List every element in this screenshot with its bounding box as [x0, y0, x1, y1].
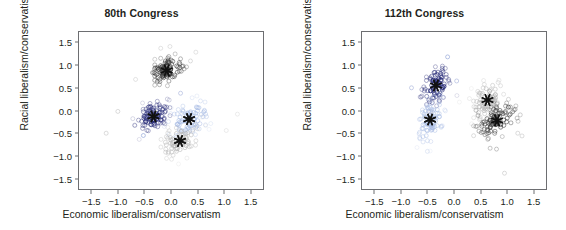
scatter-point — [409, 86, 413, 90]
scatter-point — [166, 120, 170, 124]
y-tick-label: 1.5 — [329, 37, 355, 48]
x-tick-mark — [533, 190, 534, 194]
scatter-point — [502, 92, 506, 96]
x-tick-label: 1.0 — [218, 196, 231, 207]
x-axis-label: Economic liberalism/conservatism — [283, 208, 566, 220]
x-tick-mark — [197, 190, 198, 194]
y-tick-label: −1.5 — [329, 173, 355, 184]
x-tick-label: 0.0 — [164, 196, 177, 207]
scatter-point — [104, 131, 108, 135]
scatter-point — [141, 126, 145, 130]
x-tick-mark — [374, 190, 375, 194]
x-tick-mark — [427, 190, 428, 194]
scatter-point — [194, 50, 198, 54]
scatter-point — [134, 77, 138, 81]
y-tick-mark — [75, 65, 79, 66]
scatter-point — [165, 84, 169, 88]
panel-112th-congress: 112th Congress Racial liberalism/conserv… — [283, 0, 566, 230]
scatter-point — [153, 78, 157, 82]
x-tick-mark — [91, 190, 92, 194]
scatter-point — [163, 140, 167, 144]
y-tick-mark — [358, 65, 362, 66]
scatter-point — [188, 59, 192, 63]
scatter-point — [516, 131, 520, 135]
x-tick-label: −1.0 — [391, 196, 410, 207]
scatter-point — [209, 122, 213, 126]
y-tick-label: 1.0 — [329, 60, 355, 71]
scatter-point — [509, 121, 513, 125]
scatter-point — [177, 162, 181, 166]
x-tick-mark — [224, 190, 225, 194]
scatter-point — [495, 147, 499, 151]
scatter-point — [185, 156, 189, 160]
scatter-point — [116, 109, 120, 113]
y-tick-mark — [358, 155, 362, 156]
scatter-point — [469, 86, 473, 90]
x-tick-label: −1.0 — [108, 196, 127, 207]
y-tick-label: −1.0 — [46, 150, 72, 161]
scatter-point — [455, 94, 459, 98]
scatter-point — [153, 57, 157, 61]
y-tick-mark — [358, 87, 362, 88]
scatter-point — [472, 116, 476, 120]
scatter-point — [502, 171, 506, 175]
scatter-point — [131, 117, 135, 121]
y-tick-mark — [358, 42, 362, 43]
x-tick-mark — [400, 190, 401, 194]
scatter-point — [179, 91, 183, 95]
scatter-point — [167, 79, 171, 83]
scatter-point — [500, 135, 504, 139]
scatter-point — [159, 145, 163, 149]
scatter-point — [467, 97, 471, 101]
scatter-point — [194, 143, 198, 147]
scatter-point — [137, 137, 141, 141]
y-tick-label: 1.5 — [46, 37, 72, 48]
scatter-point — [457, 100, 461, 104]
scatter-point — [195, 94, 199, 98]
panel-80th-congress: 80th Congress Racial liberalism/conserva… — [0, 0, 283, 230]
plot-area: 1.51.00.50.0−0.5−1.0−1.5−1.5−1.0−0.50.00… — [361, 31, 547, 190]
scatter-point — [176, 108, 180, 112]
x-tick-label: −1.5 — [82, 196, 101, 207]
scatter-point — [165, 156, 169, 160]
scatter-point — [168, 44, 172, 48]
scatter-point — [493, 87, 497, 91]
scatter-point — [518, 113, 522, 117]
x-tick-mark — [507, 190, 508, 194]
scatter-point — [159, 137, 163, 141]
panel-title: 112th Congress — [283, 7, 566, 19]
scatter-point — [193, 133, 197, 137]
x-tick-label: −1.5 — [365, 196, 384, 207]
y-tick-mark — [75, 155, 79, 156]
scatter-points-layer — [361, 31, 547, 190]
y-tick-mark — [75, 87, 79, 88]
scatter-point — [159, 56, 163, 60]
scatter-point — [141, 101, 145, 105]
y-tick-label: −0.5 — [46, 128, 72, 139]
panel-title: 80th Congress — [0, 7, 283, 19]
y-axis-label: Racial liberalism/conservatism — [301, 0, 313, 140]
scatter-point — [159, 46, 163, 50]
scatter-point — [472, 134, 476, 138]
scatter-point — [235, 112, 239, 116]
y-tick-label: 0.0 — [46, 105, 72, 116]
scatter-point — [194, 139, 198, 143]
scatter-point — [199, 99, 203, 103]
scatter-point — [488, 146, 492, 150]
x-axis-label: Economic liberalism/conservatism — [0, 208, 283, 220]
y-tick-label: −1.0 — [329, 150, 355, 161]
scatter-point — [415, 146, 419, 150]
scatter-point — [181, 104, 185, 108]
y-tick-label: −0.5 — [329, 128, 355, 139]
scatter-point — [141, 133, 145, 137]
x-tick-label: 0.5 — [474, 196, 487, 207]
x-tick-label: 0.5 — [191, 196, 204, 207]
scatter-point — [173, 52, 177, 56]
x-tick-label: 1.0 — [501, 196, 514, 207]
scatter-point — [190, 96, 194, 100]
scatter-point — [224, 128, 228, 132]
y-tick-mark — [75, 133, 79, 134]
plot-area: 1.51.00.50.0−0.5−1.0−1.5−1.5−1.0−0.50.00… — [78, 31, 264, 190]
scatter-point — [507, 113, 511, 117]
y-tick-mark — [75, 178, 79, 179]
